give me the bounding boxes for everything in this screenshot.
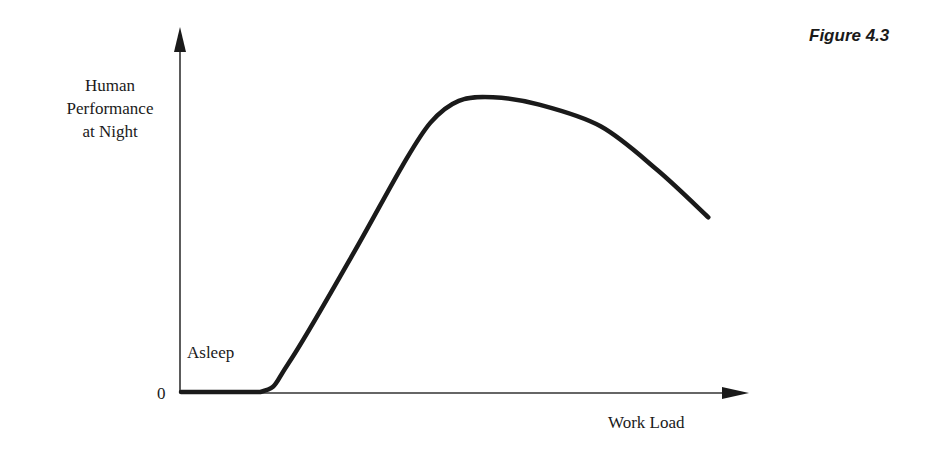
plot-area [0,0,949,455]
performance-curve [181,97,708,392]
y-axis-arrow-icon [174,27,186,52]
x-axis-arrow-icon [722,387,749,399]
